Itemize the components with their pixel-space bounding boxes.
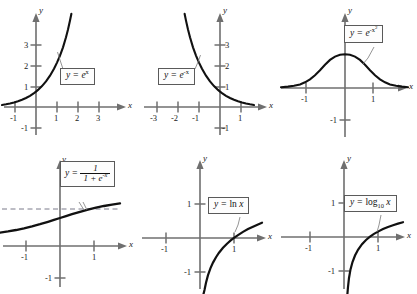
x-tick-label-1: 1 <box>376 244 380 253</box>
panel-logistic: x y -1 1 -1 y = 1 1 + e-x <box>0 147 139 294</box>
x-tick-label--2: -2 <box>171 114 178 123</box>
panel-exp-x: x y -1 1 2 3 1 2 3 -1 y = ex <box>0 0 139 147</box>
formula-lhs: y = <box>350 197 363 207</box>
x-axis-label: x <box>268 232 272 241</box>
formula-exponent: -x <box>184 68 189 75</box>
y-tick-label--1: -1 <box>184 268 191 277</box>
x-tick-label-1: 1 <box>371 95 375 104</box>
x-tick-label--1: -1 <box>161 245 168 254</box>
curve-ln <box>204 223 263 294</box>
formula-callout-logistic: y = 1 1 + e-x <box>60 161 115 187</box>
x-tick-label--1: -1 <box>305 244 312 253</box>
x-axis-arrowhead <box>118 242 127 249</box>
y-tick-label--1: -1 <box>45 274 52 283</box>
formula-exponent: x <box>86 68 89 75</box>
formula-callout-exp-x: y = ex <box>60 68 95 85</box>
x-axis-arrowhead <box>258 103 267 110</box>
x-tick-label--1: -1 <box>10 114 17 123</box>
formula-argument: x <box>239 199 243 209</box>
panel-exp-neg-x: x y -3 -2 -1 1 1 2 3 -1 y = e-x <box>139 0 278 147</box>
formula-lhs: y = <box>66 70 79 80</box>
x-tick-label-2: 2 <box>75 114 79 123</box>
y-tick-label-1: 1 <box>24 83 28 92</box>
y-tick-label--1: -1 <box>21 124 28 133</box>
y-axis-label: y <box>223 6 227 15</box>
y-tick-label-2: 2 <box>24 62 28 71</box>
formula-callout-gaussian: y = e-x2 <box>344 25 383 43</box>
x-tick-label-1: 1 <box>238 114 242 123</box>
formula-fraction: 1 1 + e-x <box>80 164 110 184</box>
formula-lhs: y = <box>214 199 227 209</box>
denominator-exponent: -x <box>102 171 107 178</box>
y-tick-label-2: 2 <box>225 62 229 71</box>
y-tick-label-1: 1 <box>187 200 191 209</box>
y-axis-label: y <box>347 154 351 163</box>
formula-function-name: log <box>365 197 377 207</box>
y-axis-label: y <box>203 154 207 163</box>
formula-log-base: 10 <box>378 202 384 209</box>
formula-lhs: y = <box>350 28 363 38</box>
x-tick-label-3: 3 <box>96 114 100 123</box>
panel-ln-plot <box>139 147 278 294</box>
panel-gaussian: x y -1 1 -1 y = e-x2 <box>278 0 417 147</box>
x-tick-label--1: -1 <box>301 95 308 104</box>
panel-ln: x y -1 1 1 -1 y = ln x <box>139 147 278 294</box>
y-tick-label-1: 1 <box>331 199 335 208</box>
callout-leader-line <box>363 47 374 64</box>
panel-log10-plot <box>278 147 417 294</box>
denominator-prefix: 1 + <box>83 173 96 183</box>
y-tick-label--1: -1 <box>222 124 229 133</box>
y-axis-label: y <box>348 6 352 15</box>
x-axis-label: x <box>407 231 411 240</box>
figure-exponential-logarithmic-graphs: x y -1 1 2 3 1 2 3 -1 y = ex <box>0 0 417 294</box>
formula-callout-log10: y = log10 x <box>344 195 397 212</box>
formula-exponent-power: 2 <box>375 25 378 30</box>
x-axis-arrowhead <box>396 233 405 240</box>
x-tick-label--1: -1 <box>21 253 28 262</box>
y-tick-label-3: 3 <box>225 41 229 50</box>
formula-exponent: -x2 <box>370 26 378 33</box>
y-tick-label--1: -1 <box>328 267 335 276</box>
panel-log10: x y -1 1 1 -1 y = log10 x <box>278 147 417 294</box>
x-tick-label-1: 1 <box>232 245 236 254</box>
x-axis-arrowhead <box>257 234 266 241</box>
x-axis-label: x <box>128 101 132 110</box>
x-axis-arrowhead <box>117 103 126 110</box>
x-axis-label: x <box>269 101 273 110</box>
x-tick-label-1: 1 <box>92 253 96 262</box>
x-axis-label: x <box>129 240 133 249</box>
x-axis-label: x <box>409 82 413 91</box>
x-tick-label--3: -3 <box>150 114 157 123</box>
formula-lhs: y = <box>65 168 78 178</box>
formula-callout-ln: y = ln x <box>208 197 249 214</box>
y-axis-label: y <box>39 6 43 15</box>
fraction-denominator: 1 + e-x <box>80 174 110 183</box>
formula-function-name: ln <box>229 199 236 209</box>
y-tick-label--1: -1 <box>330 116 337 125</box>
y-tick-label-3: 3 <box>24 41 28 50</box>
formula-lhs: y = <box>164 70 177 80</box>
formula-callout-exp-neg-x: y = e-x <box>158 68 195 85</box>
x-tick-label-1: 1 <box>54 114 58 123</box>
formula-argument: x <box>386 197 390 207</box>
y-tick-label-1: 1 <box>225 83 229 92</box>
x-tick-label--1: -1 <box>192 114 199 123</box>
panel-gaussian-plot <box>278 0 417 147</box>
callout-leader-line <box>235 217 240 232</box>
curve-log10 <box>347 222 403 294</box>
